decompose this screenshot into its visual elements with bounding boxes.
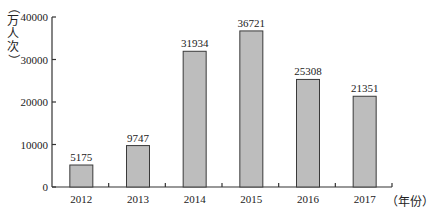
y-tick-label: 10000 bbox=[21, 139, 49, 151]
x-tick-label: 2017 bbox=[354, 193, 377, 205]
bar-value-label: 9747 bbox=[127, 132, 150, 144]
bar-2015: 36721 bbox=[238, 17, 266, 187]
y-tick-label: 0 bbox=[43, 181, 49, 193]
y-tick-label: 20000 bbox=[21, 96, 49, 108]
x-tick-label: 2014 bbox=[184, 193, 207, 205]
bar-2017: 21351 bbox=[351, 82, 379, 187]
svg-text:人: 人 bbox=[7, 27, 19, 41]
bar-chart: （万人次） 010000200003000040000 201220132014… bbox=[0, 0, 434, 217]
bars: 5175974731934367212530821351 bbox=[70, 17, 379, 187]
bar-value-label: 21351 bbox=[351, 82, 379, 94]
x-tick-label: 2015 bbox=[240, 193, 263, 205]
y-axis: 010000200003000040000 bbox=[21, 11, 57, 193]
bar-2013: 9747 bbox=[127, 132, 150, 187]
x-tick-label: 2012 bbox=[70, 193, 92, 205]
chart-canvas: （万人次） 010000200003000040000 201220132014… bbox=[0, 0, 434, 217]
y-tick-label: 30000 bbox=[21, 54, 49, 66]
bar-2014: 31934 bbox=[181, 37, 209, 187]
bar-2016: 25308 bbox=[294, 65, 322, 187]
svg-text:万: 万 bbox=[7, 14, 19, 28]
y-tick-label: 40000 bbox=[21, 11, 49, 23]
bar-2012: 5175 bbox=[70, 151, 93, 187]
bar-value-label: 25308 bbox=[294, 65, 322, 77]
bar-value-label: 36721 bbox=[238, 17, 266, 29]
x-axis: 201220132014201520162017 bbox=[52, 183, 392, 205]
y-axis-label: （万人次） bbox=[6, 2, 20, 66]
svg-text:（: （ bbox=[6, 2, 20, 14]
x-tick-label: 2016 bbox=[297, 193, 320, 205]
x-axis-label: （年份） bbox=[386, 195, 434, 209]
x-tick-label: 2013 bbox=[127, 193, 150, 205]
svg-text:次: 次 bbox=[7, 40, 19, 54]
bar-value-label: 5175 bbox=[70, 151, 93, 163]
svg-text:）: ） bbox=[6, 54, 20, 66]
bar-value-label: 31934 bbox=[181, 37, 209, 49]
